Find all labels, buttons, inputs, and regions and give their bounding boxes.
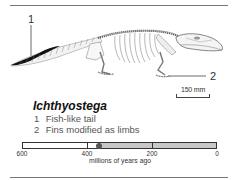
feature-item: 1 Fish-like tail xyxy=(34,114,96,124)
timeline-tick-label: 0 xyxy=(215,151,219,158)
timeline-tick xyxy=(152,142,153,149)
bottom-divider xyxy=(10,177,228,178)
timeline-caption: millions of years ago xyxy=(0,158,236,165)
callout-1-number: 1 xyxy=(28,14,34,25)
species-title: Ichthyostega xyxy=(33,100,107,112)
scale-bar-label: 150 mm xyxy=(176,86,210,93)
callout-2-number: 2 xyxy=(210,71,216,82)
feature-text: Fish-like tail xyxy=(46,113,96,124)
skeleton-illustration-icon xyxy=(0,8,236,88)
scale-bar: 150 mm xyxy=(176,86,210,98)
feature-number: 1 xyxy=(34,114,43,124)
timeline-tick xyxy=(87,142,88,149)
feature-text: Fins modified as limbs xyxy=(46,124,140,135)
top-divider xyxy=(10,5,228,6)
timeline-existence-range xyxy=(99,143,216,148)
geologic-timeline-bar xyxy=(22,142,217,149)
scale-bar-bracket xyxy=(176,94,210,98)
timeline-tick-label: 600 xyxy=(17,151,28,158)
feature-number: 2 xyxy=(34,125,43,135)
timeline-origin-marker xyxy=(96,143,102,149)
feature-item: 2 Fins modified as limbs xyxy=(34,125,140,135)
